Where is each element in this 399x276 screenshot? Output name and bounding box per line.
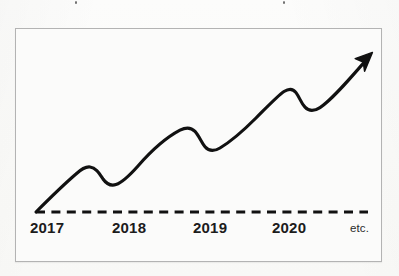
x-tick-label-2019: 2019 bbox=[193, 220, 227, 235]
chart-page: 2017 2018 2019 2020 etc. bbox=[0, 0, 399, 276]
trend-line bbox=[36, 63, 364, 213]
x-tick-label-2018: 2018 bbox=[112, 220, 146, 235]
x-tick-label-2017: 2017 bbox=[30, 220, 64, 235]
x-tick-label-etc: etc. bbox=[350, 223, 369, 235]
x-tick-label-2020: 2020 bbox=[272, 220, 306, 235]
